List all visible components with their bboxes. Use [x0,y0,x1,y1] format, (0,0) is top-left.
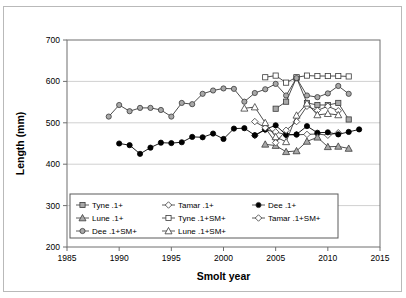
legend: Tyne .1+Tamar .1+Dee .1+Lune .1+Tyne .1+… [70,194,338,238]
data-point [210,88,215,93]
data-point [284,80,289,85]
legend-label: Tamar .1+ [178,201,214,210]
data-point [127,143,132,148]
data-point [169,140,174,145]
data-point [325,130,330,135]
data-point [117,102,122,107]
data-point [190,102,195,107]
series-dee-1-sm [106,75,351,119]
legend-label: Dee .1+SM+ [92,227,137,236]
data-point [252,133,257,138]
y-tick-label-200: 200 [46,242,60,252]
data-point [221,136,226,141]
legend-marker-square-icon [166,215,171,220]
data-point [158,140,163,145]
data-point [200,91,205,96]
data-point [263,75,268,80]
data-point [304,93,309,98]
legend-marker-circle-icon [80,228,85,233]
data-point [179,140,184,145]
legend-label: Tamar .1+SM+ [268,214,321,223]
x-tick-label-2005: 2005 [266,253,285,263]
data-point [346,117,351,122]
data-point [210,131,215,136]
legend-marker-circle-icon [256,202,261,207]
data-point [273,106,278,111]
data-point [304,131,311,138]
series-line [119,125,359,154]
data-point [242,99,247,104]
data-point [324,110,331,116]
data-point [346,129,351,134]
y-tick-label-600: 600 [46,76,60,86]
data-point [315,95,320,100]
series-dee-1 [117,123,362,157]
data-point [346,91,351,96]
data-point [127,109,132,114]
data-point [169,114,174,119]
data-point [231,126,236,131]
data-point [251,104,258,110]
data-point [200,135,205,140]
data-point [283,138,290,144]
data-point [294,132,299,137]
data-point [357,127,362,132]
data-point [336,100,341,105]
legend-label: Lune .1+SM+ [178,227,226,236]
data-point [262,141,269,147]
x-axis: 1985199019952000200520102015 [58,247,390,263]
data-point [242,126,247,131]
legend-label: Lune .1+ [92,214,124,223]
x-tick-label-1985: 1985 [58,253,77,263]
data-point [336,73,341,78]
chart-figure: 2003004005006007001985199019952000200520… [0,0,406,298]
data-point [137,151,142,156]
x-tick-label-1990: 1990 [110,253,129,263]
data-point [273,81,278,86]
data-point [190,134,195,139]
series-layer [106,73,362,156]
data-point [294,75,299,80]
legend-label: Tyne .1+ [92,201,123,210]
series-line [109,78,349,117]
data-point [284,99,289,104]
data-point [273,123,278,128]
data-point [252,118,258,125]
data-point [221,86,226,91]
data-point [148,105,153,110]
data-point [148,145,153,150]
data-point [106,114,111,119]
data-point [231,86,236,91]
gridlines [67,81,380,205]
x-tick-label-1995: 1995 [162,253,181,263]
y-axis-title: Length (mm) [14,112,26,176]
y-tick-label-300: 300 [46,201,60,211]
data-point [346,74,351,79]
y-tick-label-500: 500 [46,118,60,128]
data-point [117,141,122,146]
x-tick-label-2010: 2010 [318,253,337,263]
x-tick-label-2015: 2015 [371,253,390,263]
data-point [158,107,163,112]
length-vs-smolt-year-chart: 2003004005006007001985199019952000200520… [0,0,406,298]
y-tick-label-700: 700 [46,35,60,45]
data-point [137,105,142,110]
legend-label: Tyne .1+SM+ [178,214,226,223]
data-point [304,124,309,129]
data-point [325,91,330,96]
data-point [336,132,341,137]
y-axis: 200300400500600700 [46,35,67,252]
legend-label: Dee .1+ [268,201,297,210]
legend-marker-square-icon [80,202,85,207]
data-point [315,73,320,78]
data-point [303,138,310,144]
y-tick-label-400: 400 [46,159,60,169]
data-point [252,90,257,95]
x-tick-label-2000: 2000 [214,253,233,263]
data-point [284,93,289,98]
x-axis-title: Smolt year [197,270,251,282]
data-point [273,73,278,78]
data-point [179,100,184,105]
data-point [325,73,330,78]
data-point [336,83,341,88]
